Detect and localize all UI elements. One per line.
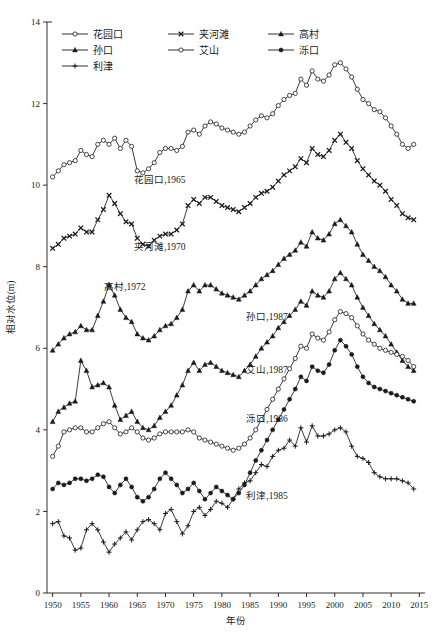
data-point-filled-circle	[310, 365, 314, 369]
data-point-open-circle	[372, 342, 376, 346]
data-point-open-circle	[186, 428, 190, 432]
data-point-filled-circle	[372, 385, 376, 389]
data-point-open-circle	[203, 124, 207, 128]
data-point-filled-circle	[141, 499, 145, 503]
data-point-open-circle	[338, 309, 342, 313]
data-point-open-circle	[406, 358, 410, 362]
data-point-open-circle	[276, 387, 280, 391]
data-point-open-circle	[299, 344, 303, 348]
data-point-open-circle	[282, 97, 286, 101]
data-point-filled-circle	[338, 338, 342, 342]
data-point-open-circle	[412, 365, 416, 369]
data-point-filled-circle	[180, 491, 184, 495]
data-point-open-circle	[237, 446, 241, 450]
data-point-open-circle	[271, 397, 275, 401]
data-point-open-circle	[209, 440, 213, 444]
data-point-open-circle	[51, 454, 55, 458]
x-tick-label: 1960	[100, 600, 119, 610]
data-point-open-circle	[203, 438, 207, 442]
data-point-filled-circle	[395, 393, 399, 397]
data-point-open-circle	[73, 32, 77, 36]
data-point-open-circle	[146, 167, 150, 171]
data-point-open-circle	[209, 120, 213, 124]
data-point-filled-circle	[135, 495, 139, 499]
data-point-filled-circle	[96, 473, 100, 477]
data-point-open-circle	[163, 146, 167, 150]
data-point-open-circle	[276, 104, 280, 108]
data-point-open-circle	[79, 148, 83, 152]
data-point-open-circle	[214, 122, 218, 126]
data-point-open-circle	[400, 354, 404, 358]
x-tick-label: 2000	[326, 600, 345, 610]
data-point-open-circle	[56, 169, 60, 173]
data-point-open-circle	[90, 154, 94, 158]
data-point-open-circle	[259, 114, 263, 118]
data-point-filled-circle	[406, 397, 410, 401]
data-point-open-circle	[51, 175, 55, 179]
data-point-open-circle	[231, 130, 235, 134]
data-point-open-circle	[242, 442, 246, 446]
data-point-open-circle	[220, 444, 224, 448]
data-point-open-circle	[152, 436, 156, 440]
data-point-open-circle	[254, 428, 258, 432]
data-point-open-circle	[350, 316, 354, 320]
data-point-open-circle	[141, 436, 145, 440]
data-point-filled-circle	[101, 475, 105, 479]
data-point-open-circle	[118, 432, 122, 436]
y-tick-label: 12	[31, 99, 40, 109]
x-tick-label: 1950	[44, 600, 63, 610]
data-point-filled-circle	[259, 448, 263, 452]
x-tick-label: 1980	[213, 600, 232, 610]
data-point-open-circle	[350, 75, 354, 79]
data-point-filled-circle	[169, 477, 173, 481]
data-point-filled-circle	[163, 471, 167, 475]
data-point-filled-circle	[361, 375, 365, 379]
data-point-open-circle	[361, 332, 365, 336]
data-point-filled-circle	[378, 387, 382, 391]
data-point-filled-circle	[56, 481, 60, 485]
data-point-filled-circle	[130, 485, 134, 489]
data-point-open-circle	[293, 91, 297, 95]
x-tick-label: 1965	[128, 600, 147, 610]
series-annotation: 艾山,1987	[246, 365, 288, 375]
data-point-filled-circle	[209, 491, 213, 495]
chart-figure: 0246810121419501955196019651970197519801…	[0, 0, 446, 638]
data-point-open-circle	[344, 67, 348, 71]
y-tick-label: 0	[36, 588, 41, 598]
data-point-filled-circle	[192, 481, 196, 485]
data-point-open-circle	[67, 161, 71, 165]
data-point-filled-circle	[51, 487, 55, 491]
data-point-filled-circle	[186, 487, 190, 491]
data-point-open-circle	[73, 159, 77, 163]
data-point-filled-circle	[355, 365, 359, 369]
y-tick-label: 2	[36, 507, 41, 517]
data-point-open-circle	[327, 73, 331, 77]
data-point-open-circle	[242, 130, 246, 134]
legend-label: 泺口	[299, 45, 319, 56]
data-point-filled-circle	[197, 489, 201, 493]
data-point-open-circle	[175, 430, 179, 434]
data-point-open-circle	[389, 350, 393, 354]
data-point-open-circle	[344, 312, 348, 316]
data-point-open-circle	[96, 142, 100, 146]
data-point-open-circle	[163, 430, 167, 434]
data-point-open-circle	[135, 430, 139, 434]
data-point-open-circle	[124, 138, 128, 142]
data-point-open-circle	[158, 432, 162, 436]
y-axis-title: 相对水位(m)	[5, 281, 17, 335]
data-point-filled-circle	[79, 477, 83, 481]
data-point-open-circle	[180, 430, 184, 434]
data-point-open-circle	[175, 148, 179, 152]
data-point-filled-circle	[158, 477, 162, 481]
data-point-open-circle	[214, 442, 218, 446]
data-point-open-circle	[271, 112, 275, 116]
data-point-filled-circle	[299, 375, 303, 379]
data-point-open-circle	[333, 318, 337, 322]
data-point-open-circle	[304, 83, 308, 87]
x-axis-title: 年份	[226, 615, 246, 626]
x-tick-label: 2015	[410, 600, 429, 610]
data-point-filled-circle	[288, 397, 292, 401]
data-point-filled-circle	[124, 477, 128, 481]
data-point-open-circle	[248, 124, 252, 128]
data-point-open-circle	[395, 352, 399, 356]
